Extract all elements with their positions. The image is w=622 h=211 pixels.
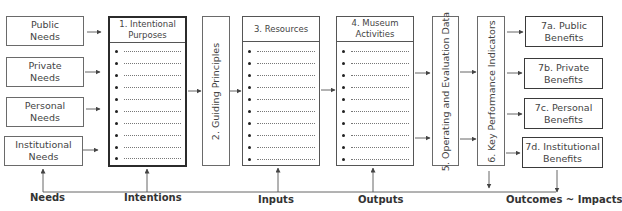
stage-label-needs: Needs xyxy=(30,192,65,203)
stage-label-outputs: Outputs xyxy=(358,194,403,205)
stage-label-inputs: Inputs xyxy=(258,194,294,205)
stage-label-outcomes-impacts: Outcomes ~ Impacts xyxy=(506,194,622,205)
stage-label-intentions: Intentions xyxy=(124,192,182,203)
